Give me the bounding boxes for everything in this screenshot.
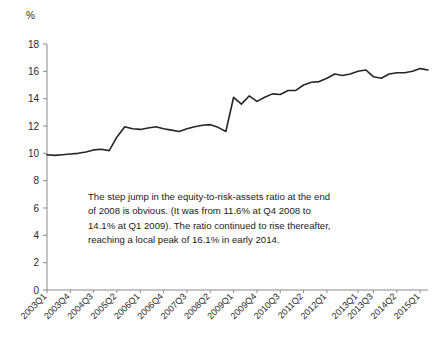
y-axis-tick-label: 14: [28, 93, 40, 104]
x-axis-tick-label: 2010Q3: [252, 291, 282, 321]
x-axis-tick-label: 2012Q1: [299, 291, 329, 321]
y-axis-tick-label: 4: [33, 230, 39, 241]
y-axis: 024681012141618: [28, 39, 47, 296]
y-axis-tick-label: 10: [28, 148, 40, 159]
data-series: [47, 69, 428, 156]
y-axis-tick-label: 12: [28, 121, 40, 132]
x-axis-ticks: 2003Q12003Q42004Q32005Q22006Q12006Q42007…: [19, 290, 422, 321]
y-axis-tick-label: 18: [28, 39, 40, 50]
equity-to-risk-assets-line: [47, 69, 428, 156]
chart-annotation: The step jump in the equity-to-risk-asse…: [88, 190, 388, 248]
chart-figure: % 024681012141618 2003Q12003Q42004Q32005…: [0, 0, 434, 346]
y-axis-ticks: 024681012141618: [28, 39, 47, 296]
annotation-line-4: reaching a local peak of 16.1% in early …: [88, 233, 388, 247]
y-axis-tick-label: 2: [33, 257, 39, 268]
annotation-line-2: of 2008 is obvious. (It was from 11.6% a…: [88, 204, 388, 218]
x-axis-tick-label: 2015Q1: [392, 291, 422, 321]
annotation-line-3: 14.1% at Q1 2009). The ratio continued t…: [88, 219, 388, 233]
y-axis-tick-label: 16: [28, 66, 40, 77]
x-axis: 2003Q12003Q42004Q32005Q22006Q12006Q42007…: [19, 290, 428, 321]
y-axis-tick-label: 8: [33, 175, 39, 186]
line-chart-plot: 024681012141618 2003Q12003Q42004Q32005Q2…: [0, 0, 434, 346]
annotation-line-1: The step jump in the equity-to-risk-asse…: [88, 190, 388, 204]
y-axis-tick-label: 6: [33, 203, 39, 214]
